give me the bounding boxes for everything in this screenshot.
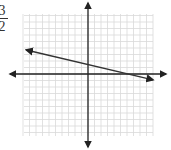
- coordinate-plane: [0, 0, 171, 150]
